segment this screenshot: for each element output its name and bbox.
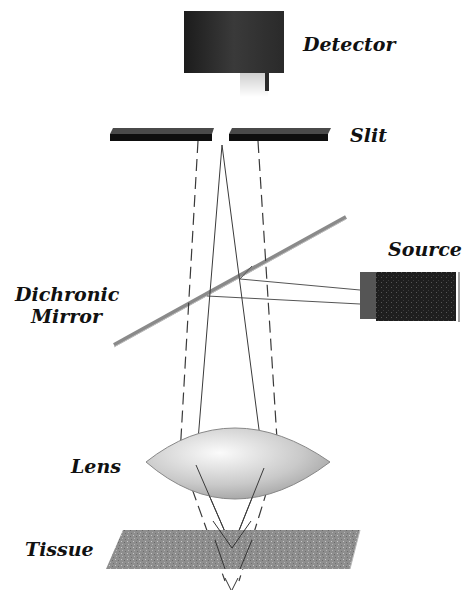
- detector: [184, 11, 284, 97]
- tissue-label: Tissue: [25, 538, 94, 560]
- dichroic-label-line1: Dichronic: [15, 283, 119, 305]
- detector-label: Detector: [303, 33, 395, 55]
- slit: [110, 128, 331, 141]
- dichroic-label-line2: Mirror: [31, 305, 102, 327]
- dichroic-mirror: [114, 217, 346, 347]
- slit-label: Slit: [350, 124, 387, 146]
- source-label: Source: [388, 238, 462, 260]
- lens-label: Lens: [71, 455, 121, 477]
- lens: [146, 428, 330, 499]
- excitation-rays: [207, 266, 360, 304]
- out-of-focus-rays: [180, 141, 278, 581]
- source: [360, 272, 459, 322]
- tissue: [106, 530, 360, 569]
